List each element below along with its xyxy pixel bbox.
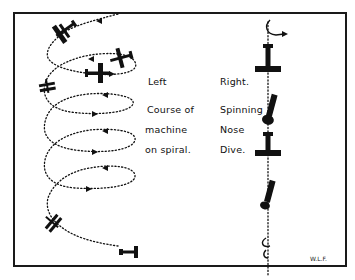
caption-left-4: on spiral. [145,144,191,155]
caption-left-1: Left [148,76,167,87]
dive-plane-icon [255,44,281,72]
illustration [0,0,355,280]
spin-arrow-icon [263,238,270,246]
caption-right-2: Spinning [220,104,263,115]
dive-plane-icon [255,132,281,156]
caption-right-1: Right. [220,76,249,87]
biplane-icon [108,45,135,70]
spinning-plane-icon [261,93,281,126]
caption-right-4: Dive. [220,144,245,155]
spin-arrow-icon [267,20,284,35]
caption-right-3: Nose [220,124,245,135]
monoplane-icon [119,246,138,258]
caption-left-2: Course of [147,104,194,115]
spiral-path [44,14,135,246]
spinning-plane-icon [259,179,276,211]
caption-left-3: machine [145,124,187,135]
biplane-icon [38,78,56,95]
monoplane-icon [85,63,110,83]
biplane-icon [40,210,64,234]
artist-signature: W.L.F. [310,255,327,262]
